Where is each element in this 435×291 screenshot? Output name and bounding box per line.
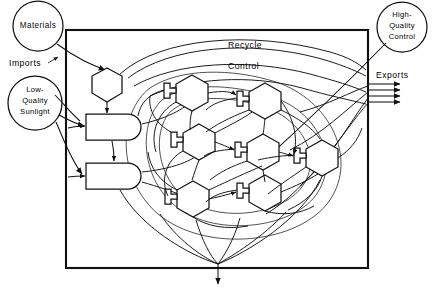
consumer-group: [164, 75, 338, 217]
source-label-materials: Materials: [20, 21, 56, 30]
tank2-inflow-arrow: [68, 176, 85, 177]
tank1-inflow-arrow: [68, 126, 85, 128]
source-label-sunlight-line3: Sunlight: [20, 107, 50, 116]
storage-tank-1: [86, 114, 141, 140]
heat-sink-drains: [120, 180, 320, 264]
source-label-sunlight-line1: Low-: [26, 85, 44, 94]
producer-hexagon: [92, 68, 122, 102]
source-label-control-line3: Control: [389, 32, 416, 41]
consumer-hexagon-7: [237, 175, 281, 211]
flow-label-control: Control: [228, 61, 259, 71]
source-label-control-line2: Quality: [389, 21, 415, 30]
export-feed-2: [290, 92, 368, 150]
flow-label-exports: Exports: [376, 70, 409, 80]
source-label-sunlight-line2: Quality: [22, 96, 48, 105]
flow-label-imports: Imports: [9, 58, 41, 68]
tank1-to-tank2: [112, 141, 114, 161]
diagram-canvas: Materials Low- Quality Sunlight High- Qu…: [0, 0, 435, 291]
export-feed-3: [300, 98, 368, 186]
imports-pointer: [48, 57, 58, 63]
flowline-sunlight-to-system: [59, 115, 84, 126]
source-label-control-line1: High-: [392, 10, 412, 19]
flowline-materials-to-producer: [57, 44, 105, 70]
consumer-hexagon-2: [237, 83, 281, 119]
consumer-hexagon-4: [235, 134, 279, 170]
flow-label-recycle: Recycle: [228, 40, 262, 50]
storage-tank-2: [86, 163, 141, 189]
energy-systems-diagram: Materials Low- Quality Sunlight High- Qu…: [0, 0, 435, 291]
export-arrow-group: [368, 84, 400, 102]
consumer-hexagon-6: [165, 181, 209, 217]
flowline-sunlight-lower: [56, 122, 82, 174]
